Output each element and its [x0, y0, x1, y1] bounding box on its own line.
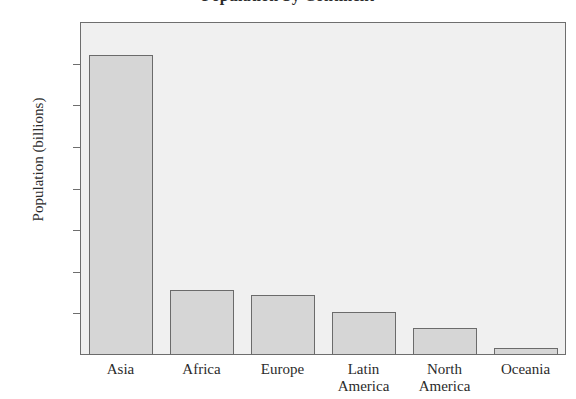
y-tick-mark [73, 64, 81, 65]
plot-area [80, 22, 566, 355]
chart-title: Population by Continent [0, 0, 576, 5]
y-tick-mark [73, 313, 81, 314]
bar[interactable] [251, 295, 315, 355]
y-tick-mark [73, 189, 81, 190]
y-axis-title: Population (billions) [30, 50, 47, 270]
bar[interactable] [89, 55, 153, 355]
x-tick-label: North America [404, 361, 485, 395]
y-tick-mark [73, 230, 81, 231]
bar[interactable] [413, 328, 477, 355]
x-tick-label: Europe [242, 361, 323, 378]
bar-chart-figure: Population by Continent Population (bill… [0, 0, 576, 399]
y-tick-mark [73, 147, 81, 148]
x-tick-label: Asia [80, 361, 161, 378]
y-tick-mark [73, 272, 81, 273]
bar[interactable] [170, 290, 234, 355]
x-tick-label: Africa [161, 361, 242, 378]
y-tick-mark [73, 105, 81, 106]
bar[interactable] [494, 348, 558, 355]
x-tick-label: Latin America [323, 361, 404, 395]
bar[interactable] [332, 312, 396, 355]
x-tick-label: Oceania [485, 361, 566, 378]
